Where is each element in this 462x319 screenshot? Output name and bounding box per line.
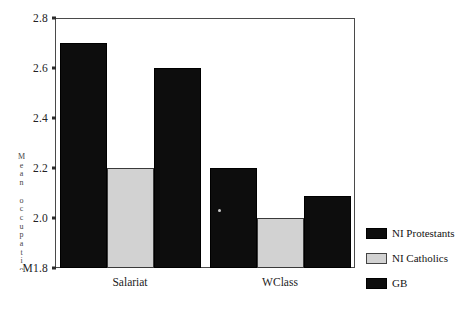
y-axis-tick-mark [52,217,56,220]
y-axis-tick-mark [52,117,56,120]
bar-ni-catholics-wclass [257,218,304,268]
y-axis-tick-label: 2.8 [33,12,48,24]
x-axis-tick-label-wclass: WClass [262,276,298,288]
legend-item-label: GB [392,277,407,289]
y-axis-tick-label: 2.6 [33,62,48,74]
y-axis-tick-label: 2.2 [33,162,48,174]
legend-item-ni-catholics[interactable]: NI Catholics [366,247,462,269]
legend-swatch-icon [366,278,387,289]
y-axis-tick-label: 2.0 [33,212,48,224]
legend-item-label: NI Protestants [392,227,455,239]
legend-item-ni-protestants[interactable]: NI Protestants [366,222,462,244]
bar-ni-protestants-salariat [60,43,107,268]
bar-gb-wclass [304,196,351,269]
y-axis-tick-mark [52,267,56,270]
bar-ni-catholics-salariat [107,168,154,268]
plot-area [55,18,355,268]
y-axis-tick-label: 2.4 [33,112,48,124]
bar-chart-figure: 2.82.62.42.22.0M1.8 Mean occupational st… [0,0,462,319]
legend-item-gb[interactable]: GB [366,272,462,294]
bar-ni-protestants-wclass [210,168,257,268]
legend-swatch-icon [366,253,387,264]
y-axis-tick-mark [52,167,56,170]
legend-swatch-icon [366,228,387,239]
scan-speck [218,209,221,212]
y-axis-tick-mark [52,17,56,20]
y-axis-title: Mean occupational status score [13,152,25,270]
x-axis-tick-label-salariat: Salariat [112,276,147,288]
legend-item-label: NI Catholics [392,252,448,264]
y-axis-tick-label: M1.8 [23,262,48,274]
y-axis-tick-mark [52,67,56,70]
chart-legend: NI ProtestantsNI CatholicsGB [366,222,462,297]
bar-gb-salariat [154,68,201,268]
